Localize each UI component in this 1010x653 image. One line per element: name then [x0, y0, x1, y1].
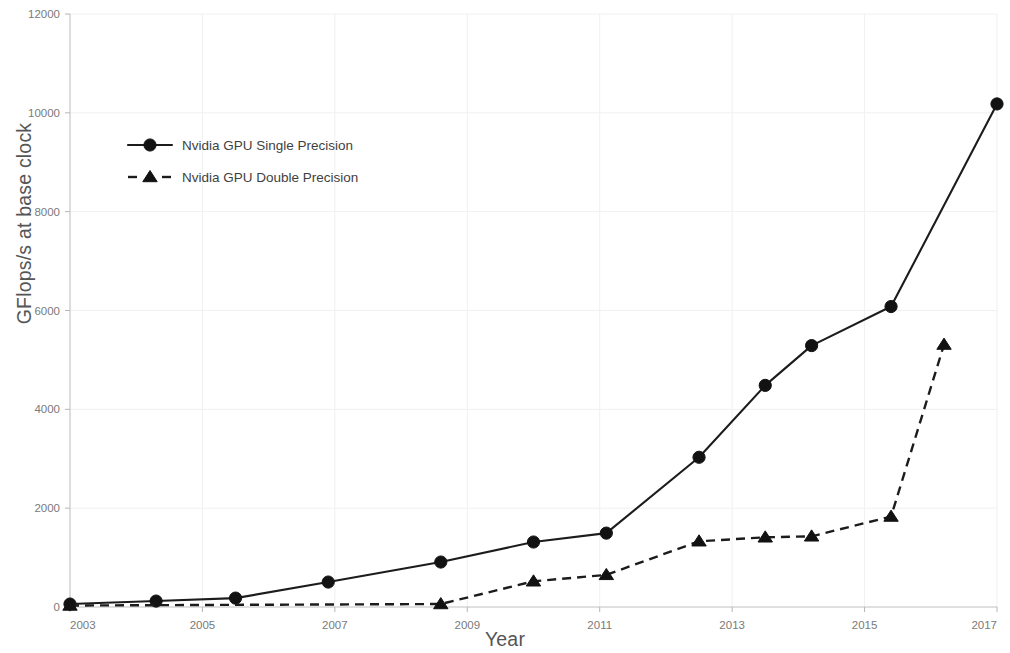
y-tick-label: 0: [54, 601, 60, 613]
legend-label-1: Nvidia GPU Single Precision: [182, 138, 353, 153]
data-point-marker: [229, 592, 241, 604]
data-point-marker: [600, 527, 612, 539]
legend-label-2: Nvidia GPU Double Precision: [182, 170, 358, 185]
data-point-marker: [527, 536, 539, 548]
line-chart: 020004000600080001000012000 200320052007…: [0, 0, 1010, 653]
y-axis-title: GFlops/s at base clock: [13, 114, 36, 334]
gridlines: [70, 14, 997, 607]
data-point-marker: [435, 556, 447, 568]
chart-legend: Nvidia GPU Single PrecisionNvidia GPU Do…: [128, 138, 358, 185]
chart-container: 020004000600080001000012000 200320052007…: [0, 0, 1010, 653]
data-point-marker: [759, 379, 771, 391]
data-point-marker: [991, 98, 1003, 110]
data-point-marker: [937, 338, 951, 349]
y-tick-label: 2000: [34, 502, 60, 514]
legend-marker-triangle: [143, 171, 157, 182]
x-axis-title: Year: [0, 628, 1010, 651]
data-point-marker: [322, 576, 334, 588]
data-point-marker: [692, 535, 706, 546]
data-point-marker: [884, 510, 898, 521]
y-tick-label: 4000: [34, 403, 60, 415]
data-point-marker: [693, 451, 705, 463]
data-point-marker: [806, 339, 818, 351]
y-tick-label: 12000: [28, 8, 60, 20]
legend-marker-circle: [144, 139, 156, 151]
data-point-marker: [885, 300, 897, 312]
y-tick-label: 8000: [34, 206, 60, 218]
series-line-2: [70, 345, 944, 606]
y-tick-label: 6000: [34, 305, 60, 317]
